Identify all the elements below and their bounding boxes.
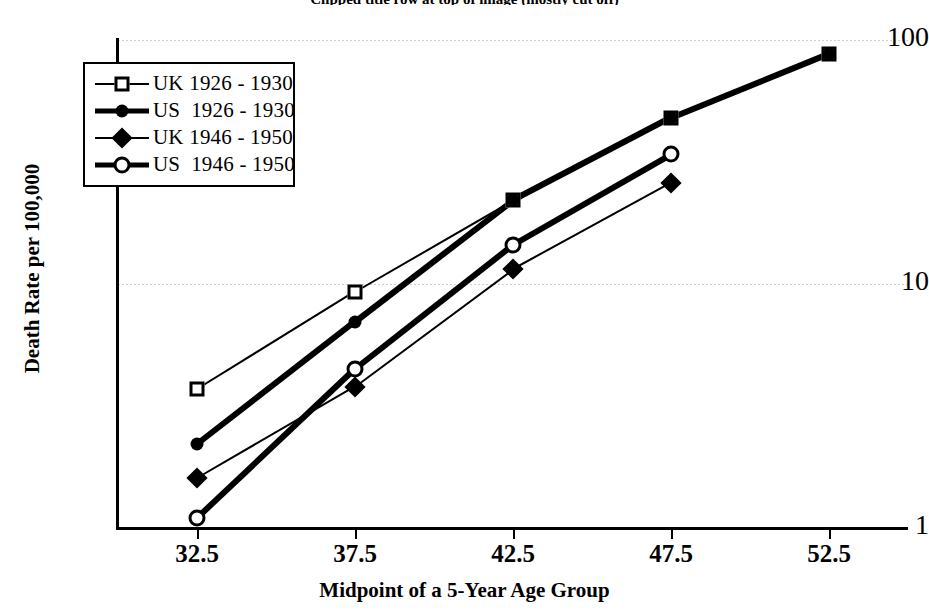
data-point-circle-open	[114, 156, 131, 173]
y-axis-tick-label: 1	[821, 511, 929, 539]
legend-item-1[interactable]: US 1926 - 1930	[91, 97, 285, 124]
chart-legend: UK 1926 - 1930US 1926 - 1930UK 1946 - 19…	[83, 62, 295, 187]
data-point-diamond-filled	[660, 172, 681, 193]
y-axis-tick-label: 10	[821, 267, 929, 295]
data-point-circle-filled	[507, 194, 520, 207]
legend-swatch	[91, 154, 153, 176]
y-axis-tick-label: 100	[821, 23, 929, 51]
legend-label: US 1946 - 1950	[153, 152, 295, 177]
legend-label: UK 1926 - 1930	[153, 71, 293, 96]
gridline	[118, 40, 908, 41]
series-line-segment	[354, 268, 513, 387]
x-axis-tick-mark	[513, 530, 515, 539]
data-point-circle-open	[347, 360, 364, 377]
x-axis-tick-label: 47.5	[611, 540, 731, 568]
legend-swatch	[91, 100, 153, 122]
x-axis-tick-mark	[197, 530, 199, 539]
x-axis-tick-label: 42.5	[453, 540, 573, 568]
legend-label: US 1926 - 1930	[153, 98, 295, 123]
x-axis-tick-label: 32.5	[137, 540, 257, 568]
data-point-circle-filled	[823, 47, 836, 60]
x-axis-title: Midpoint of a 5-Year Age Group	[0, 578, 929, 603]
series-line-segment	[512, 115, 673, 203]
data-point-diamond-filled	[111, 127, 132, 148]
series-line-segment	[670, 51, 830, 121]
legend-item-2[interactable]: UK 1946 - 1950	[91, 124, 285, 151]
x-axis-tick-label: 52.5	[769, 540, 889, 568]
series-line-segment	[196, 386, 355, 479]
series-line-segment	[512, 152, 673, 248]
data-point-circle-filled	[349, 315, 362, 328]
x-axis-tick-mark	[829, 530, 831, 539]
data-point-circle-open	[505, 236, 522, 253]
data-point-circle-open	[663, 146, 680, 163]
data-point-square-open	[348, 284, 363, 299]
data-point-diamond-filled	[502, 259, 523, 280]
x-axis-tick-mark	[355, 530, 357, 539]
x-axis-tick-label: 37.5	[295, 540, 415, 568]
y-axis-title: Death Rate per 100,000	[20, 59, 45, 479]
data-point-circle-filled	[116, 104, 129, 117]
chart-figure: Clipped title row at top of image (mostl…	[0, 0, 929, 612]
gridline	[118, 284, 908, 285]
data-point-diamond-filled	[186, 468, 207, 489]
x-axis-line	[116, 527, 908, 530]
data-point-circle-filled	[665, 111, 678, 124]
data-point-square-open	[115, 76, 130, 91]
data-point-circle-filled	[191, 438, 204, 451]
series-line-segment	[195, 366, 357, 520]
legend-label: UK 1946 - 1950	[153, 125, 293, 150]
x-axis-tick-mark	[671, 530, 673, 539]
legend-item-0[interactable]: UK 1926 - 1930	[91, 70, 285, 97]
legend-item-3[interactable]: US 1946 - 1950	[91, 151, 285, 178]
data-point-square-open	[190, 382, 205, 397]
data-point-circle-open	[189, 509, 206, 526]
legend-swatch	[91, 127, 153, 149]
legend-swatch	[91, 73, 153, 95]
chart-title: Clipped title row at top of image (mostl…	[0, 0, 929, 5]
